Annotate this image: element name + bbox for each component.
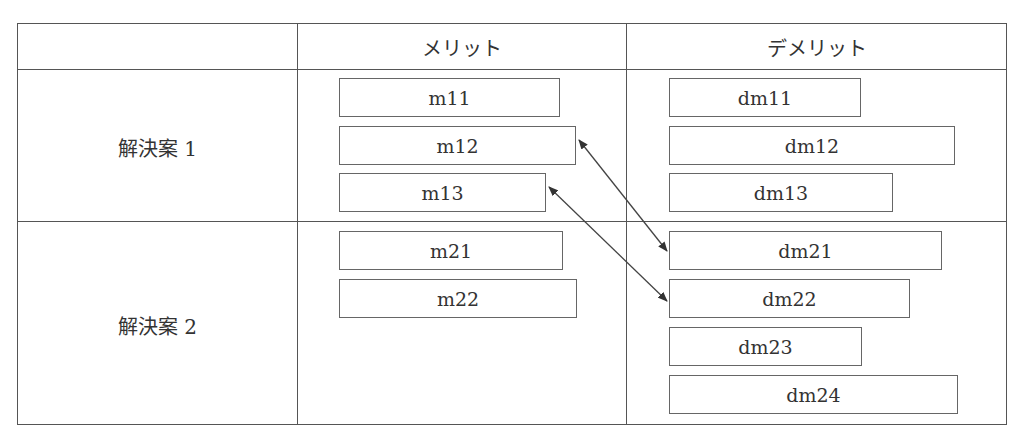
arrow-m12-dm21	[579, 140, 667, 251]
arrow-m13-dm22	[549, 187, 667, 301]
relation-arrows	[0, 0, 1018, 434]
